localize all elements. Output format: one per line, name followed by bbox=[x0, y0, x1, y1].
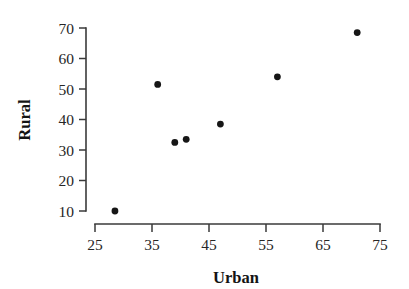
plot-area: 10203040506070 253545556575 Urban Rural bbox=[0, 0, 409, 289]
y-axis-tick-labels: 10203040506070 bbox=[59, 20, 75, 220]
y-tick-label: 70 bbox=[59, 20, 75, 37]
data-point bbox=[112, 208, 119, 215]
data-point bbox=[274, 73, 281, 80]
y-tick-label: 30 bbox=[59, 142, 75, 159]
x-tick-label: 45 bbox=[201, 236, 217, 253]
data-point bbox=[183, 136, 190, 143]
y-tick-label: 10 bbox=[59, 203, 75, 220]
data-point bbox=[217, 121, 224, 128]
y-tick-label: 40 bbox=[59, 111, 75, 128]
x-axis-tick-labels: 253545556575 bbox=[87, 236, 388, 253]
scatter-chart: 10203040506070 253545556575 Urban Rural bbox=[0, 0, 409, 289]
y-tick-label: 50 bbox=[59, 81, 75, 98]
axis-tick-marks bbox=[79, 28, 380, 232]
x-axis-title: Urban bbox=[213, 268, 259, 287]
y-tick-label: 20 bbox=[59, 172, 75, 189]
x-tick-label: 75 bbox=[372, 236, 388, 253]
y-tick-label: 60 bbox=[59, 50, 75, 67]
data-point bbox=[171, 139, 178, 146]
x-tick-label: 25 bbox=[87, 236, 103, 253]
data-point bbox=[354, 29, 361, 36]
x-tick-label: 55 bbox=[258, 236, 274, 253]
y-axis-title: Rural bbox=[15, 99, 34, 141]
x-tick-label: 35 bbox=[144, 236, 160, 253]
data-points bbox=[112, 29, 361, 214]
x-tick-label: 65 bbox=[315, 236, 331, 253]
data-point bbox=[154, 81, 161, 88]
